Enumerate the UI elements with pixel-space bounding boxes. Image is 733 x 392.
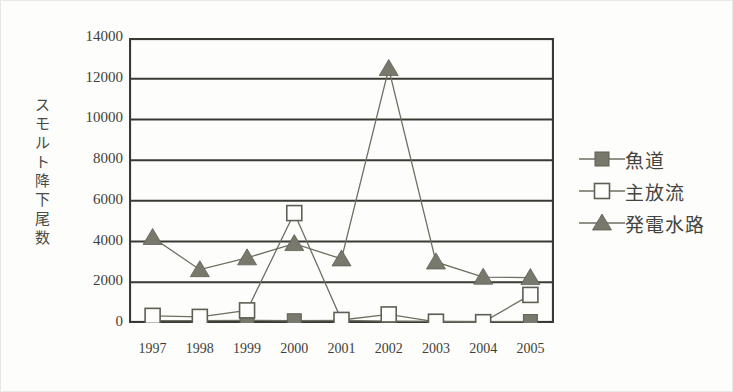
marker-filled-triangle: [426, 253, 445, 269]
marker-open-square: [523, 287, 538, 302]
series-line-filled-triangle: [153, 69, 531, 278]
legend-key-swatch: [579, 181, 625, 201]
legend-item-0[interactable]: 魚道: [579, 143, 729, 175]
marker-open-square: [145, 308, 160, 323]
marker-open-square: [595, 184, 610, 199]
marker-filled-triangle: [593, 214, 612, 230]
legend-marker-filled-triangle: [579, 213, 625, 233]
plot-area: [129, 38, 554, 323]
legend-marker-filled-square: [579, 149, 625, 169]
x-axis-tick-label: 2005: [500, 341, 560, 357]
legend-label: 発電水路: [625, 210, 705, 237]
marker-open-square: [287, 206, 302, 221]
marker-filled-triangle: [379, 60, 398, 76]
marker-open-square: [192, 309, 207, 323]
legend-marker-open-square: [579, 181, 625, 201]
marker-open-square: [428, 314, 443, 323]
marker-filled-triangle: [521, 269, 540, 285]
marker-open-square: [240, 303, 255, 318]
chart-legend: 魚道主放流発電水路: [579, 143, 729, 239]
legend-key-swatch: [579, 149, 625, 169]
marker-filled-triangle: [285, 235, 304, 251]
marker-filled-triangle: [238, 249, 257, 265]
legend-key-swatch: [579, 213, 625, 233]
chart-figure: スモルト降下尾数 0200040006000800010000120001400…: [0, 0, 733, 392]
marker-filled-triangle: [143, 229, 162, 245]
marker-open-square: [381, 307, 396, 322]
marker-filled-square: [595, 152, 609, 166]
marker-filled-square: [523, 315, 537, 323]
chart-canvas: [129, 38, 554, 323]
marker-filled-square: [287, 314, 301, 323]
legend-label: 魚道: [625, 146, 665, 173]
legend-item-1[interactable]: 主放流: [579, 175, 729, 207]
legend-label: 主放流: [625, 178, 685, 205]
marker-filled-triangle: [332, 250, 351, 266]
marker-open-square: [476, 315, 491, 323]
marker-filled-triangle: [474, 268, 493, 284]
legend-item-2[interactable]: 発電水路: [579, 207, 729, 239]
marker-open-square: [334, 312, 349, 323]
